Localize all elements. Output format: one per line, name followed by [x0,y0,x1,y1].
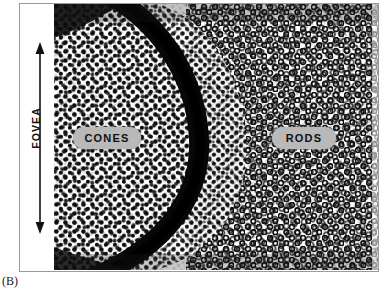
fovea-axis: FOVEA [20,4,54,270]
callout-label-cones: CONES [73,127,141,149]
callout-label-rods: RODS [272,127,336,149]
figure-root: FOVEA CONES RODS (B) [0,0,391,295]
fovea-axis-label: FOVEA [30,68,42,188]
panel-caption: (B) [2,274,18,289]
